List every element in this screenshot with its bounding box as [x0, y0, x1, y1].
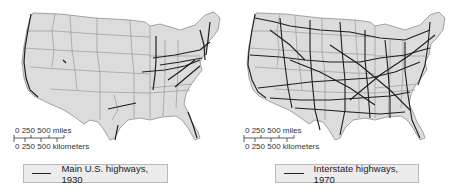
- legend-label: Interstate highways, 1970: [314, 163, 410, 185]
- scale-bar-1970: 0 250 500 miles 0 250 500 kilometers: [243, 126, 343, 156]
- scale-km-label: 0 250 500 kilometers: [245, 142, 319, 151]
- legend-1930: Main U.S. highways, 1930: [23, 164, 168, 183]
- scale-km-label: 0 250 500 kilometers: [15, 142, 89, 151]
- legend-1970: Interstate highways, 1970: [275, 164, 419, 183]
- legend-line-swatch: [32, 173, 51, 174]
- legend-line-swatch: [284, 173, 304, 174]
- scale-bar-1930: 0 250 500 miles 0 250 500 kilometers: [13, 126, 113, 156]
- legend-label: Main U.S. highways, 1930: [61, 163, 159, 185]
- map-panel-1970: 0 250 500 miles 0 250 500 kilometers Int…: [230, 0, 460, 194]
- map-panel-1930: 0 250 500 miles 0 250 500 kilometers Mai…: [0, 0, 230, 194]
